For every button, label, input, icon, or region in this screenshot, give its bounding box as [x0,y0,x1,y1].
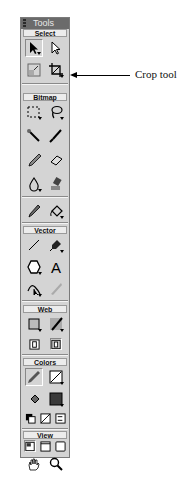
full-screen-icon [55,441,66,452]
freeform-tool[interactable] [25,280,43,298]
swap-colors-icon [55,413,66,424]
pen-icon [48,237,64,253]
divider [22,300,68,302]
show-slices-button[interactable] [50,338,62,350]
divider [22,222,68,224]
rectangle-tool[interactable] [25,258,43,276]
section-vector-header: Vector [23,226,67,234]
blur-tool[interactable] [25,175,43,193]
text-tool[interactable]: A [47,258,65,276]
fill-color[interactable] [25,390,43,408]
swap-colors[interactable] [54,412,66,424]
lasso-tool[interactable] [47,103,65,121]
magnifier-icon [48,456,64,472]
line-tool[interactable] [25,236,43,254]
svg-text:A: A [51,259,61,275]
pen-tool[interactable] [47,236,65,254]
default-colors[interactable] [24,412,36,424]
blur-icon [26,176,42,192]
polygon-icon [26,259,42,275]
hotspot-tool[interactable] [25,315,43,333]
zoom-tool[interactable] [47,455,65,473]
hand-tool[interactable] [25,455,43,473]
divider [22,428,68,430]
grip-icon[interactable] [23,19,26,28]
no-stroke-fill[interactable] [39,412,51,424]
paint-bucket-tool[interactable] [47,202,65,220]
paint-bucket-icon [26,391,42,407]
fill-swatch-icon [48,391,64,407]
crop-icon [48,62,64,78]
pointer-icon [26,40,42,56]
knife-tool[interactable] [47,280,65,298]
freeform-icon [26,281,42,297]
standard-screen-icon [25,441,35,452]
line-icon [26,237,42,253]
hide-slices-button[interactable] [28,338,40,350]
full-screen-mode[interactable] [54,440,66,452]
magic-wand-tool[interactable] [25,127,43,145]
full-screen-menus-icon [40,441,51,452]
marquee-tool[interactable] [25,103,43,121]
standard-screen-mode[interactable] [24,440,36,452]
divider [22,354,68,356]
subselection-tool[interactable] [47,39,65,57]
annotation-label: Crop tool [135,68,177,80]
pencil-tool[interactable] [25,151,43,169]
marquee-icon [26,104,42,120]
paint-bucket-icon [48,203,64,219]
full-screen-menus-mode[interactable] [39,440,51,452]
lasso-icon [48,104,64,120]
slice-icon [48,316,64,332]
section-web-header: Web [23,305,67,313]
knife-icon [48,281,64,297]
default-colors-icon [25,413,36,424]
pointer-tool[interactable] [25,39,43,57]
annotation-line [72,75,130,76]
pencil-icon [26,152,42,168]
hand-icon [26,456,42,472]
eraser-icon [48,152,64,168]
tools-panel: Tools Select Bitmap [20,17,70,458]
brush-icon [48,128,64,144]
stroke-color[interactable] [25,368,43,386]
text-icon: A [48,259,64,275]
no-color-icon [40,413,51,424]
section-bitmap-header: Bitmap [23,93,67,101]
panel-title: Tools [33,18,54,29]
subselection-icon [48,40,64,56]
magic-wand-icon [26,128,42,144]
eyedropper-tool[interactable] [25,202,43,220]
scale-tool[interactable] [25,61,43,79]
section-select-header: Select [23,29,67,37]
crop-tool[interactable] [47,61,65,79]
scale-icon [26,62,42,78]
divider [22,196,68,198]
rubber-stamp-icon [48,176,64,192]
stroke-color-box[interactable] [47,368,65,386]
section-colors-header: Colors [23,358,67,366]
rubber-stamp-tool[interactable] [47,175,65,193]
stroke-swatch-icon [48,369,64,385]
divider [22,83,68,85]
pencil-icon [26,369,42,385]
hide-slices-icon [29,339,40,350]
eraser-tool[interactable] [47,151,65,169]
hotspot-icon [26,316,42,332]
tools-titlebar[interactable]: Tools [21,18,69,29]
section-view-header: View [23,431,67,439]
eyedropper-icon [26,203,42,219]
show-slices-icon [51,339,61,350]
fill-color-box[interactable] [47,390,65,408]
slice-tool[interactable] [47,315,65,333]
brush-tool[interactable] [47,127,65,145]
